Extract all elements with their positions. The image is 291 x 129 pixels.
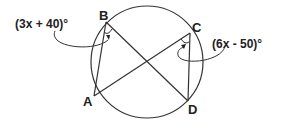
segment-ab	[94, 22, 106, 96]
segment-ac	[94, 33, 190, 96]
point-label-a: A	[83, 94, 93, 109]
point-label-d: D	[188, 102, 197, 117]
angle-b-pointer	[54, 31, 108, 47]
angle-b-expression: (3x + 40)°	[15, 17, 68, 31]
angle-c-expression: (6x - 50)°	[212, 37, 262, 51]
point-label-c: C	[192, 20, 202, 35]
inscribed-angle-diagram: B C A D (3x + 40)° (6x - 50)°	[0, 0, 291, 129]
angle-b-arrowhead	[106, 35, 110, 40]
point-label-b: B	[99, 8, 108, 23]
segment-cd	[188, 33, 190, 101]
angle-c-arc	[181, 39, 189, 43]
